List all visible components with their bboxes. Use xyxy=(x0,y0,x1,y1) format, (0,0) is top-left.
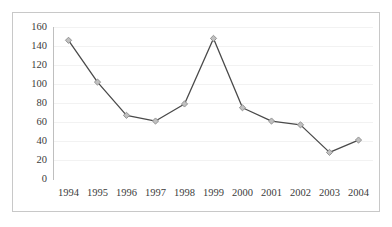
y-axis-tick-label: 20 xyxy=(37,155,48,165)
y-axis-tick-label: 160 xyxy=(31,22,47,32)
x-axis-tick-label: 2001 xyxy=(261,187,282,198)
y-axis-tick-labels: 020406080100120140160 xyxy=(13,13,51,213)
x-axis-tick-label: 1999 xyxy=(203,187,224,198)
x-axis-tick-label: 1997 xyxy=(145,187,166,198)
data-point-marker xyxy=(355,137,361,143)
series-line xyxy=(69,38,359,152)
x-axis-tick-label: 1995 xyxy=(87,187,108,198)
data-point-marker xyxy=(181,101,187,107)
x-axis-tick-label: 2002 xyxy=(290,187,311,198)
y-axis-tick-label: 0 xyxy=(42,174,47,184)
x-axis-tick-label: 1994 xyxy=(58,187,79,198)
data-point-marker xyxy=(210,35,216,41)
x-axis-tick-labels: 1994199519961997199819992000200120022003… xyxy=(54,183,373,207)
y-axis-tick-label: 120 xyxy=(31,60,47,70)
plot-area xyxy=(54,27,373,179)
data-point-marker xyxy=(268,118,274,124)
data-point-marker xyxy=(239,105,245,111)
line-series-svg xyxy=(54,27,373,179)
chart-plot-wrapper: 020406080100120140160 199419951996199719… xyxy=(13,13,379,211)
y-axis-tick-label: 60 xyxy=(37,117,48,127)
x-axis-tick-label: 2000 xyxy=(232,187,253,198)
x-axis-tick-label: 1996 xyxy=(116,187,137,198)
y-axis-tick-label: 100 xyxy=(31,79,47,89)
x-axis-tick-label: 2004 xyxy=(348,187,369,198)
x-axis-tick-label: 2003 xyxy=(319,187,340,198)
x-axis-tick-label: 1998 xyxy=(174,187,195,198)
data-point-marker xyxy=(152,118,158,124)
y-axis-tick-label: 40 xyxy=(37,136,48,146)
y-axis-tick-label: 80 xyxy=(37,98,48,108)
chart-container: 020406080100120140160 199419951996199719… xyxy=(12,12,380,212)
y-axis-tick-label: 140 xyxy=(31,41,47,51)
